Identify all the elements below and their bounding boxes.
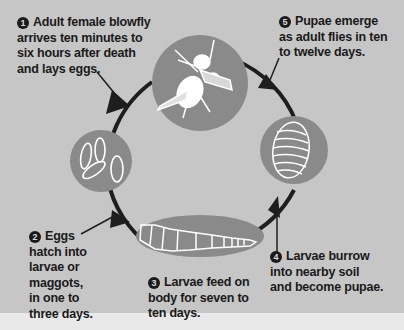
eggs-stage	[70, 130, 132, 192]
step-number-badge: 4	[270, 251, 282, 263]
step-number-badge: 2	[29, 231, 41, 243]
step-number-badge: 5	[279, 16, 291, 28]
stage-1-label: 1Adult female blowfly arrives ten minute…	[17, 15, 151, 77]
fly-stage	[152, 35, 248, 131]
stage-4-label: 4Larvae burrow into nearby soil and beco…	[270, 249, 383, 296]
pupa-stage	[260, 116, 328, 184]
stage-2-label: 2Eggs hatch into larvae or maggots, in o…	[29, 229, 93, 322]
step-number-badge: 3	[148, 277, 160, 289]
larva-stage	[136, 215, 264, 257]
step-number-badge: 1	[17, 17, 29, 29]
stage-5-label: 5Pupae emerge as adult flies in ten to t…	[279, 14, 387, 61]
stage-3-label: 3Larvae feed on body for seven to ten da…	[148, 275, 249, 322]
